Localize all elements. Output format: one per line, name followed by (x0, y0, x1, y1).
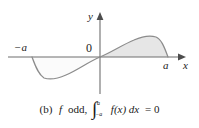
figure-caption: (b) f odd, ∫ a −a f(x) dx = 0 (0, 100, 199, 118)
origin-label: 0 (86, 42, 92, 54)
caption-function-symbol: f (59, 103, 62, 115)
y-axis-arrowhead (97, 12, 104, 20)
shaded-region-positive (100, 36, 168, 57)
integral-limits: a −a (97, 100, 107, 118)
x-axis-tick-label-a: a (163, 60, 169, 71)
caption-part-label: (b) (40, 103, 53, 115)
caption-property: odd, (68, 103, 87, 115)
function-plot (0, 0, 199, 104)
definite-integral: ∫ a −a (92, 100, 107, 118)
caption-equals-zero: = 0 (145, 103, 159, 115)
caption-integrand: f(x) dx (111, 103, 139, 115)
odd-function-figure: −a 0 y a x (b) f odd, ∫ a −a f(x) dx = 0 (0, 0, 199, 128)
x-axis-label: x (183, 60, 188, 71)
integral-upper-limit: a (97, 100, 100, 106)
y-axis-label: y (88, 11, 93, 22)
x-axis-tick-label-minus-a: −a (14, 42, 27, 53)
integral-lower-limit: −a (95, 111, 102, 117)
